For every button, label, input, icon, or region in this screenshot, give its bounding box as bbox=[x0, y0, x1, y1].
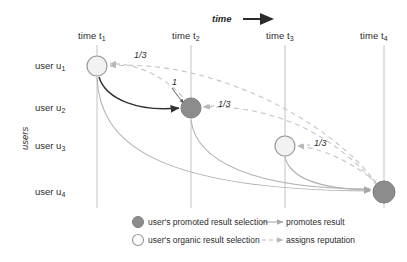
node-u1-t1-organic[interactable] bbox=[87, 56, 107, 76]
weight-label-t4-u2: 1/3 bbox=[218, 100, 231, 109]
time-header-t4: time t4 bbox=[360, 31, 388, 42]
axis-label-time: time bbox=[212, 14, 232, 24]
promote-edges bbox=[97, 78, 371, 191]
legend-open-circle-icon bbox=[133, 235, 144, 246]
legend-label-promoted: user's promoted result selection bbox=[148, 218, 268, 227]
weight-label-t2-u1: 1/3 bbox=[134, 51, 147, 60]
weight-leader-1 bbox=[172, 88, 184, 103]
user-label-u4: user u4 bbox=[35, 187, 65, 198]
reputation-edge-t4-u1 bbox=[110, 65, 377, 184]
timeline-axes bbox=[97, 45, 384, 208]
user-label-u3: user u3 bbox=[35, 141, 65, 152]
legend-label-organic: user's organic result selection bbox=[148, 236, 260, 245]
axis-label-users: users bbox=[20, 127, 30, 150]
reputation-edge-t4-u3 bbox=[298, 146, 376, 182]
user-label-u1: user u1 bbox=[35, 61, 65, 72]
promote-edge-u1-u2 bbox=[99, 77, 179, 109]
promote-edge-u1-u4 bbox=[97, 78, 370, 191]
time-header-t1: time t1 bbox=[78, 31, 106, 42]
reputation-edges bbox=[110, 64, 377, 186]
figure-canvas: time t1 time t2 time t3 time t4 user u1 … bbox=[0, 0, 407, 262]
node-u3-t3-organic[interactable] bbox=[275, 136, 295, 156]
legend-filled-circle-icon bbox=[133, 217, 144, 228]
node-u2-t2-promoted[interactable] bbox=[181, 98, 201, 118]
weight-label-u1-u2: 1 bbox=[172, 78, 177, 87]
node-u4-t4-promoted[interactable] bbox=[373, 181, 395, 203]
user-label-u2: user u2 bbox=[35, 103, 65, 114]
time-header-t2: time t2 bbox=[172, 31, 200, 42]
legend-label-promotes: promotes result bbox=[286, 218, 345, 227]
legend-label-reputation: assigns reputation bbox=[286, 236, 355, 245]
time-header-t3: time t3 bbox=[266, 31, 294, 42]
weight-label-t4-u3: 1/3 bbox=[314, 139, 327, 148]
